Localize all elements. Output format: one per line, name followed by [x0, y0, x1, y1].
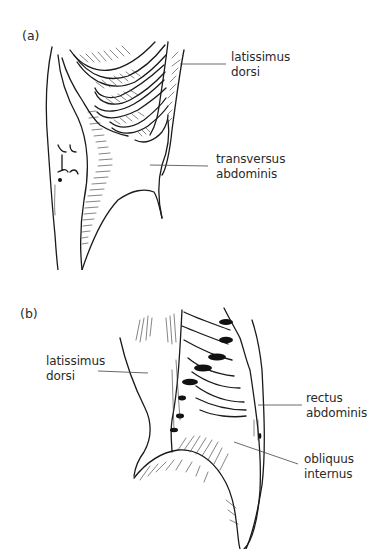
label-latissimus-dorsi-b: latissimus dorsi	[46, 354, 105, 384]
label-rectus-abdominis-b: rectus abdominis	[306, 391, 367, 421]
label-obliquus-internus-b: obliquus internus	[304, 452, 354, 482]
leader-latissimus-dorsi-b	[98, 371, 148, 373]
leader-obliquus-internus-b	[234, 442, 298, 464]
panel-b-torso-illustration: (b)	[0, 270, 374, 549]
leader-transversus-abdominis-a	[150, 165, 208, 166]
panel-a-anatomy-drawing	[0, 0, 374, 270]
label-latissimus-dorsi-a: latissimus dorsi	[231, 50, 290, 80]
label-transversus-abdominis-a: transversus abdominis	[216, 152, 285, 182]
panel-a-torso-illustration: (a)	[0, 0, 374, 270]
